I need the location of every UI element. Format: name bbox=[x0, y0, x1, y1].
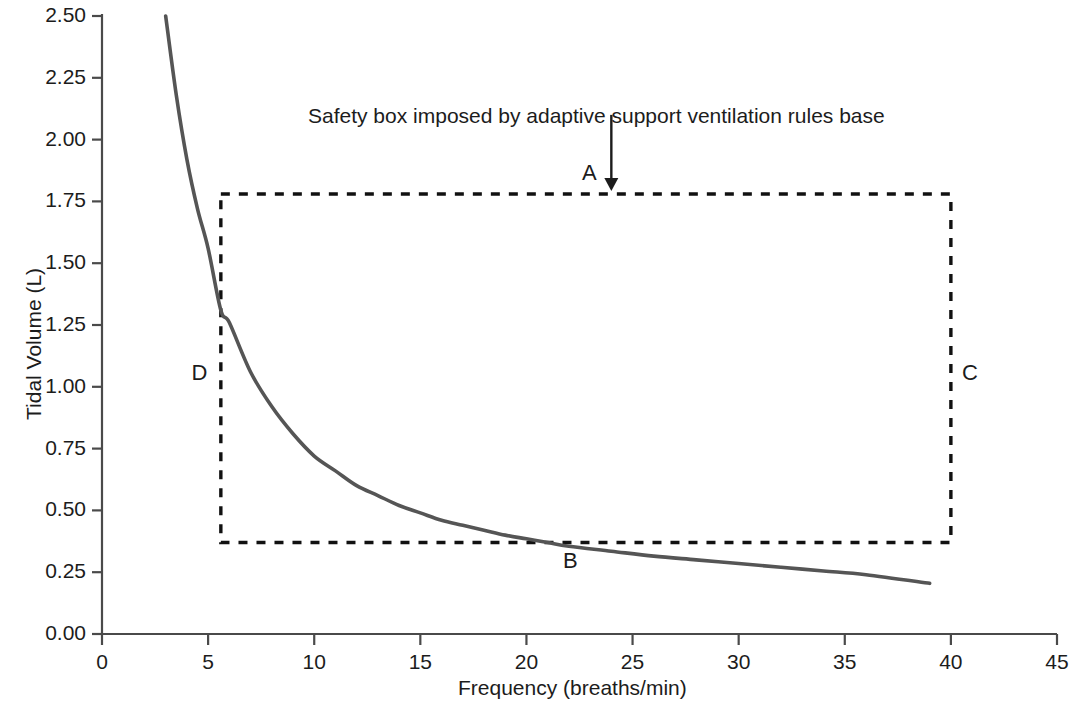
y-tick-label: 2.50 bbox=[18, 3, 86, 27]
x-tick-label: 5 bbox=[178, 650, 238, 674]
x-tick-label: 0 bbox=[72, 650, 132, 674]
x-tick-label: 20 bbox=[496, 650, 556, 674]
y-tick-label: 2.25 bbox=[18, 65, 86, 89]
y-tick-label: 0.25 bbox=[18, 559, 86, 583]
x-axis-title: Frequency (breaths/min) bbox=[458, 676, 687, 700]
safety-box-rect bbox=[221, 194, 951, 543]
y-tick-label: 1.00 bbox=[18, 374, 86, 398]
x-axis-ticks bbox=[102, 634, 1057, 645]
x-tick-label: 30 bbox=[709, 650, 769, 674]
tidal-volume-curve bbox=[166, 16, 930, 583]
chart-container: Safety box imposed by adaptive support v… bbox=[0, 0, 1081, 712]
x-tick-label: 35 bbox=[815, 650, 875, 674]
y-axis-ticks bbox=[92, 16, 102, 634]
point-label-a: A bbox=[582, 160, 597, 186]
point-label-b: B bbox=[563, 548, 578, 574]
x-tick-label: 25 bbox=[603, 650, 663, 674]
y-tick-label: 0.00 bbox=[18, 621, 86, 645]
x-tick-label: 45 bbox=[1027, 650, 1081, 674]
y-tick-label: 1.50 bbox=[18, 250, 86, 274]
y-tick-label: 1.75 bbox=[18, 188, 86, 212]
point-label-d: D bbox=[192, 360, 208, 386]
x-tick-label: 40 bbox=[921, 650, 981, 674]
safety-box-annotation-text: Safety box imposed by adaptive support v… bbox=[308, 104, 885, 128]
y-tick-label: 2.00 bbox=[18, 127, 86, 151]
x-tick-label: 15 bbox=[390, 650, 450, 674]
y-tick-label: 0.50 bbox=[18, 497, 86, 521]
x-tick-label: 10 bbox=[284, 650, 344, 674]
y-tick-label: 0.75 bbox=[18, 436, 86, 460]
point-label-c: C bbox=[962, 360, 978, 386]
y-tick-label: 1.25 bbox=[18, 312, 86, 336]
